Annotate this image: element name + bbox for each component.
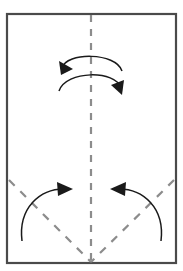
origami-diagram-canvas: Origami fold step diagram [0,0,183,271]
origami-diagram-svg: Origami fold step diagram [0,0,183,271]
